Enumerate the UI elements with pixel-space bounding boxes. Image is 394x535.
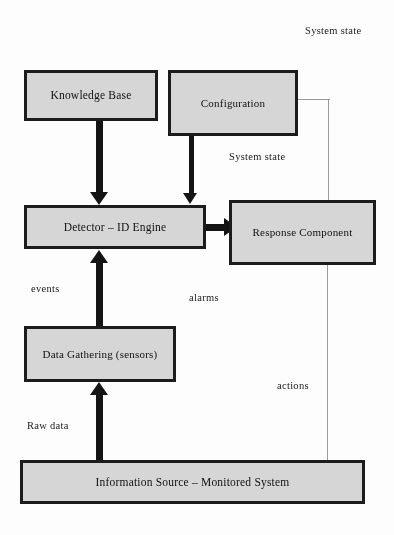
arrowhead-configuration-to-detector: [183, 193, 197, 204]
edge-label-alarms: alarms: [189, 292, 219, 303]
thin-line-response-to-information-source: [327, 264, 328, 461]
node-knowledge-base-label: Knowledge Base: [50, 89, 131, 102]
node-knowledge-base: Knowledge Base: [24, 70, 158, 121]
edge-label-actions: actions: [277, 380, 309, 391]
thin-line-configuration-to-response: [328, 99, 329, 201]
arrowhead-information-source-to-data-gathering: [90, 382, 108, 395]
node-detector-id-engine-label: Detector – ID Engine: [64, 221, 167, 234]
arrowhead-knowledge-base-to-detector: [90, 192, 108, 205]
node-information-source-label: Information Source – Monitored System: [96, 476, 290, 489]
edge-label-raw-data: Raw data: [27, 420, 69, 431]
node-information-source: Information Source – Monitored System: [20, 460, 365, 504]
node-data-gathering: Data Gathering (sensors): [24, 326, 176, 382]
connector-knowledge-base-to-detector: [96, 121, 103, 195]
connector-information-source-to-data-gathering: [96, 394, 103, 460]
diagram-canvas: Knowledge Base Configuration Detector – …: [0, 0, 394, 535]
connector-configuration-to-detector: [189, 136, 194, 194]
edge-label-system-state-middle: System state: [229, 151, 285, 162]
node-configuration-label: Configuration: [201, 97, 265, 109]
thin-line-configuration-to-right: [296, 99, 330, 100]
arrowhead-data-gathering-to-detector: [90, 250, 108, 263]
node-configuration: Configuration: [168, 70, 298, 136]
node-data-gathering-label: Data Gathering (sensors): [43, 348, 158, 360]
edge-label-system-state-top: System state: [305, 25, 361, 36]
edge-label-events: events: [31, 283, 60, 294]
node-response-component: Response Component: [229, 200, 376, 265]
connector-data-gathering-to-detector: [96, 262, 103, 326]
node-detector-id-engine: Detector – ID Engine: [24, 205, 206, 249]
node-response-component-label: Response Component: [253, 226, 353, 238]
